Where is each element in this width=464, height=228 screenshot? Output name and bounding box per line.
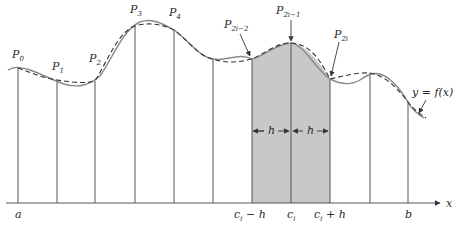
svg-text:P2i−2: P2i−2: [223, 18, 249, 33]
simpsons-rule-diagram: x P0 P1 P2 P3 P4 P2i−2 P2i−1 P2i y = f(x…: [0, 0, 464, 228]
svg-text:P2i−1: P2i−1: [275, 4, 300, 19]
parabolic-approximation: [18, 24, 426, 118]
svg-text:P2i: P2i: [333, 28, 348, 43]
svg-text:a: a: [15, 208, 22, 221]
width-label-left: h: [268, 124, 275, 137]
ordinate-lines: [18, 26, 408, 203]
svg-text:P1: P1: [51, 60, 64, 75]
curve-label: y = f(x): [411, 86, 453, 99]
x-axis-label: x: [446, 197, 453, 210]
svg-text:P4: P4: [168, 6, 181, 21]
function-curve: [8, 20, 424, 118]
x-tick-labels: a ci − h ci ci + h b: [15, 208, 412, 223]
svg-text:P3: P3: [129, 3, 142, 18]
width-label-right: h: [307, 124, 314, 137]
svg-text:P0: P0: [11, 48, 24, 63]
svg-text:ci − h: ci − h: [234, 208, 266, 223]
svg-text:ci + h: ci + h: [314, 208, 346, 223]
svg-text:P2: P2: [88, 52, 101, 67]
svg-text:ci: ci: [287, 208, 295, 223]
svg-text:b: b: [405, 208, 412, 221]
